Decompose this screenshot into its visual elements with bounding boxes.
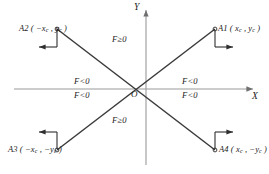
region-label-left-upper: F<0 bbox=[74, 77, 90, 86]
region-label-left-lower: F<0 bbox=[74, 91, 90, 100]
point-label-a2: A2 ( −xc , yc ) bbox=[19, 24, 67, 33]
region-label-bottom: F≥0 bbox=[112, 116, 127, 125]
point-label-a2-text: A2 ( −x bbox=[19, 23, 46, 33]
y-axis-label: Y bbox=[134, 3, 139, 13]
point-label-a3-text: A3 ( −x bbox=[8, 144, 35, 154]
point-label-a3-mid: , −y bbox=[38, 144, 54, 154]
region-label-right-upper: F<0 bbox=[182, 77, 198, 86]
point-label-a4: A4 ( xc , −yc ) bbox=[219, 145, 267, 154]
origin-label: O bbox=[131, 90, 138, 99]
point-label-a2-mid: , y bbox=[49, 23, 60, 33]
point-label-a3-close: ) bbox=[57, 144, 62, 154]
region-label-top: F≥0 bbox=[112, 35, 127, 44]
region-label-right-lower: F<0 bbox=[182, 91, 198, 100]
point-label-a3: A3 ( −xc , −yc ) bbox=[8, 145, 62, 154]
point-label-a2-close: ) bbox=[62, 23, 67, 33]
point-label-a1-text: A1 ( x bbox=[218, 23, 239, 33]
point-label-a4-text: A4 ( x bbox=[219, 144, 240, 154]
point-label-a4-close: ) bbox=[262, 144, 267, 154]
point-label-a1-mid: , y bbox=[242, 23, 253, 33]
coordinate-diagram: Y X O A1 ( xc , yc ) A2 ( −xc , yc ) A3 … bbox=[0, 0, 269, 174]
point-label-a1: A1 ( xc , yc ) bbox=[218, 24, 260, 33]
point-label-a1-close: ) bbox=[255, 23, 260, 33]
point-label-a4-mid: , −y bbox=[243, 144, 259, 154]
x-axis-label: X bbox=[252, 92, 258, 102]
